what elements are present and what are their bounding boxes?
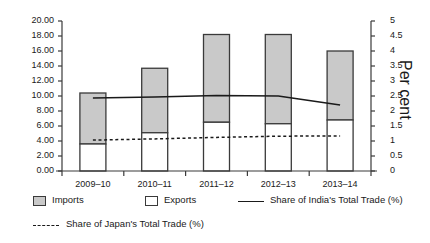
y-tick-label-right: 1.5	[390, 120, 412, 130]
bar-column	[142, 68, 168, 171]
chart-figure: US$ billions Per cent 0.002.004.006.008.…	[0, 0, 430, 243]
y-tick-label-left: 16.00	[18, 45, 54, 55]
bar-segment-imports	[204, 35, 230, 123]
legend-label-india-share: Share of India's Total Trade (%)	[270, 194, 403, 205]
y-tick-label-left: 4.00	[18, 135, 54, 145]
bar-group	[80, 35, 353, 172]
legend-label-exports: Exports	[164, 194, 196, 205]
bar-column	[80, 93, 106, 171]
bar-segment-imports	[80, 93, 106, 144]
y-tick-label-left: 6.00	[18, 120, 54, 130]
y-tick-label-right: 5	[390, 15, 412, 25]
plot-area	[0, 0, 430, 243]
x-axis-ticks	[62, 171, 371, 176]
legend-swatch-japan-share	[33, 225, 59, 226]
legend-label-japan-share: Share of Japan's Total Trade (%)	[66, 218, 204, 229]
y-tick-label-right: 4.5	[390, 30, 412, 40]
y-tick-label-left: 14.00	[18, 60, 54, 70]
y-tick-label-right: 0.5	[390, 150, 412, 160]
y-tick-label-right: 0	[390, 165, 412, 175]
legend-swatch-exports	[145, 196, 158, 206]
legend-label-imports: Imports	[52, 194, 84, 205]
x-tick-label: 2011–12	[187, 179, 247, 189]
bar-segment-exports	[265, 124, 291, 171]
y-tick-label-right: 2.5	[390, 90, 412, 100]
bar-segment-exports	[80, 144, 106, 171]
y-tick-label-right: 1	[390, 135, 412, 145]
legend-swatch-india-share	[238, 201, 264, 202]
bar-segment-imports	[265, 35, 291, 124]
bar-column	[265, 35, 291, 172]
x-tick-label: 2012–13	[248, 179, 308, 189]
y-tick-label-left: 12.00	[18, 75, 54, 85]
y-tick-label-left: 2.00	[18, 150, 54, 160]
bar-segment-imports	[327, 51, 353, 120]
legend-swatch-imports	[33, 196, 46, 206]
y-tick-label-left: 10.00	[18, 90, 54, 100]
y-tick-label-right: 3.5	[390, 60, 412, 70]
bar-segment-imports	[142, 68, 168, 133]
y-tick-label-left: 20.00	[18, 15, 54, 25]
bar-column	[327, 51, 353, 171]
y-tick-label-left: 18.00	[18, 30, 54, 40]
y-tick-label-right: 4	[390, 45, 412, 55]
y-tick-label-left: 0.00	[18, 165, 54, 175]
x-tick-label: 2010–11	[125, 179, 185, 189]
y-tick-label-left: 8.00	[18, 105, 54, 115]
y-tick-label-right: 2	[390, 105, 412, 115]
x-tick-label: 2009–10	[63, 179, 123, 189]
x-tick-label: 2013–14	[310, 179, 370, 189]
bar-column	[204, 35, 230, 172]
y-tick-label-right: 3	[390, 75, 412, 85]
bar-segment-exports	[327, 120, 353, 171]
bar-segment-exports	[204, 122, 230, 171]
